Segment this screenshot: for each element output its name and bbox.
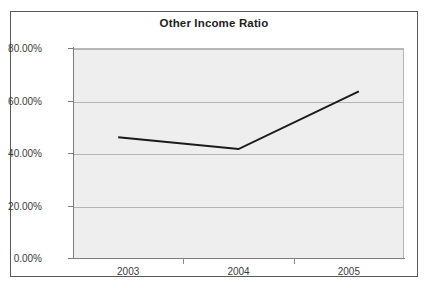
y-axis-label: 80.00%: [8, 43, 42, 54]
x-axis-label: 2005: [338, 266, 360, 277]
y-axis-label: 40.00%: [8, 148, 42, 159]
chart-title: Other Income Ratio: [11, 17, 417, 29]
y-axis-label: 20.00%: [8, 200, 42, 211]
y-axis-tick: [68, 258, 73, 259]
x-axis-tick: [294, 258, 295, 264]
y-axis-tick: [68, 48, 73, 49]
chart-frame: Other Income Ratio 0.00%20.00%40.00%60.0…: [10, 11, 418, 277]
y-axis-tick: [68, 153, 73, 154]
y-axis-label: 60.00%: [8, 95, 42, 106]
x-axis-label: 2004: [227, 266, 249, 277]
y-axis-tick: [68, 206, 73, 207]
y-axis-label: 0.00%: [14, 253, 42, 264]
series-polyline: [118, 91, 359, 149]
x-axis-tick: [183, 258, 184, 264]
y-axis-tick: [68, 101, 73, 102]
x-axis-label: 2003: [117, 266, 139, 277]
series-line-other-income-ratio: [73, 48, 404, 258]
x-axis-line: [73, 258, 405, 259]
